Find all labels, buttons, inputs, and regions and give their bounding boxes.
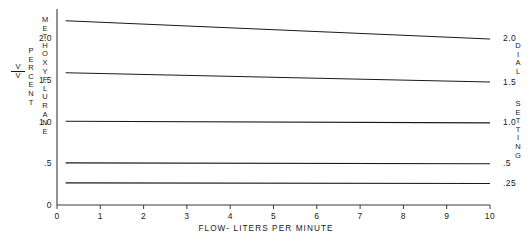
svg-text:0: 0 xyxy=(54,211,59,221)
chart-container: 012345678910 0.51.01.52.0 .25.51.01.52.0… xyxy=(0,0,532,242)
svg-text:.25: .25 xyxy=(503,178,516,188)
svg-text:4: 4 xyxy=(228,211,233,221)
x-axis-title: FLOW- LITERS PER MINUTE xyxy=(0,224,532,233)
svg-text:.5: .5 xyxy=(503,158,511,168)
svg-text:3: 3 xyxy=(184,211,189,221)
svg-text:1: 1 xyxy=(98,211,103,221)
svg-text:.5: .5 xyxy=(44,158,52,168)
vv-denominator: V xyxy=(11,72,25,80)
line-chart-plot: 012345678910 0.51.01.52.0 .25.51.01.52.0 xyxy=(0,0,532,242)
svg-text:9: 9 xyxy=(444,211,449,221)
svg-text:8: 8 xyxy=(401,211,406,221)
svg-text:7: 7 xyxy=(358,211,363,221)
svg-text:5: 5 xyxy=(271,211,276,221)
left-axis-agent-label: M E T H O X Y F L U R A N E xyxy=(40,16,50,136)
x-axis-tick-labels: 012345678910 xyxy=(54,211,495,221)
data-series-group xyxy=(66,21,490,184)
right-axis-dial-label: D I A L xyxy=(513,42,523,76)
left-axis-percent-label: P E R C E N T xyxy=(26,47,36,107)
svg-text:1.5: 1.5 xyxy=(503,77,516,87)
svg-text:10: 10 xyxy=(485,211,495,221)
x-axis-ticks xyxy=(57,205,490,209)
svg-text:2: 2 xyxy=(141,211,146,221)
right-axis-setting-label: S E T T I N G xyxy=(513,100,523,160)
svg-text:6: 6 xyxy=(314,211,319,221)
svg-text:0: 0 xyxy=(47,200,52,210)
left-axis-vv-fraction: V V xyxy=(11,63,25,79)
